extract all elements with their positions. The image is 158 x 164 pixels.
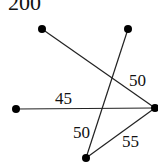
graph-diagram: 200 50 45 50 55 (0, 0, 158, 164)
edge-weight-a-d: 50 (129, 71, 146, 90)
edge-c-d (16, 108, 155, 109)
node-b (124, 25, 132, 33)
node-e (82, 154, 90, 162)
node-a (38, 25, 46, 33)
edge-weight-e-d: 55 (122, 132, 139, 151)
edge-weight-c-d: 45 (55, 89, 72, 108)
diagram-title: 200 (8, 0, 41, 15)
edge-weight-b-e: 50 (73, 123, 90, 142)
edge-e-d (86, 108, 155, 158)
node-c (12, 105, 20, 113)
